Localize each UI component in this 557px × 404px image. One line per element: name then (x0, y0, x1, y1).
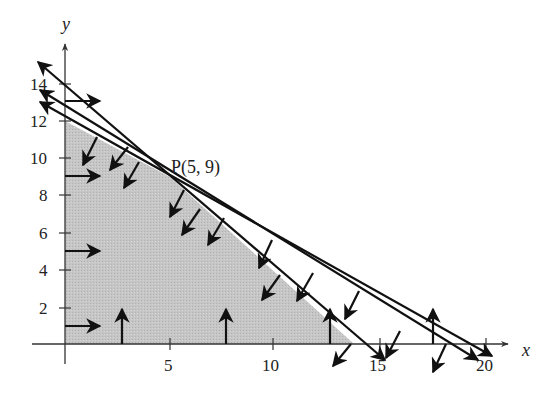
y-tick-label: 14 (30, 75, 48, 94)
x-tick-label: 20 (476, 356, 493, 375)
y-tick-label: 6 (39, 224, 48, 243)
y-tick-label: 10 (30, 149, 47, 168)
y-tick-label: 12 (30, 112, 47, 131)
y-tick-label: 8 (39, 186, 48, 205)
linear-programming-figure: x y 5 10 15 20 2 4 6 8 10 12 14 (0, 0, 557, 404)
point-label: P(5, 9) (171, 157, 220, 178)
x-tick-label: 5 (164, 356, 173, 375)
x-axis-label: x (521, 340, 530, 360)
y-tick-label: 4 (39, 261, 48, 280)
y-axis-label: y (60, 14, 70, 34)
feasible-region (65, 121, 354, 344)
y-tick-label: 2 (39, 299, 48, 318)
x-tick-label: 10 (262, 356, 279, 375)
